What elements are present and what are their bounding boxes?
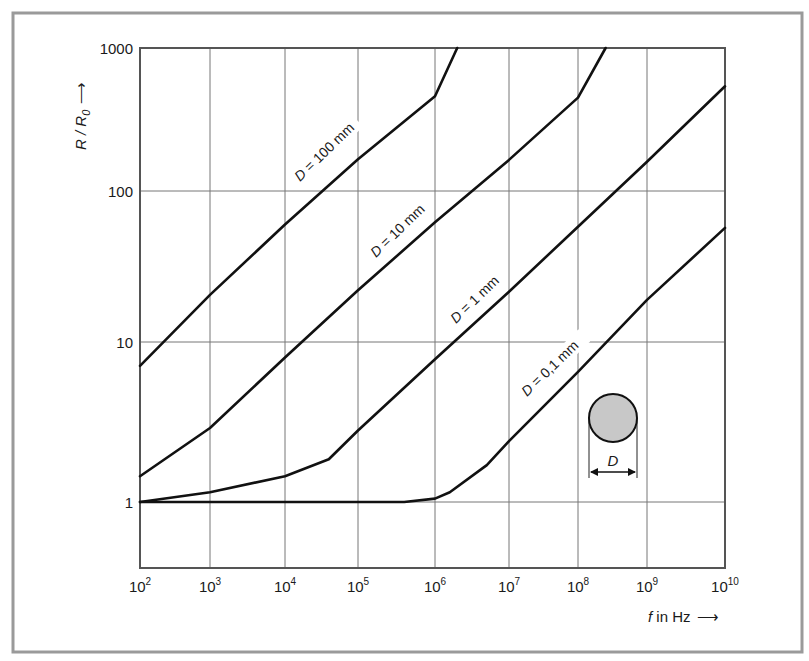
x-tick-label: 104 bbox=[274, 576, 297, 595]
y-tick-label: 100 bbox=[108, 183, 133, 200]
label-text: = 0,1 mm bbox=[525, 337, 581, 392]
cross-section-inset: D bbox=[589, 394, 637, 478]
y-tick-label: 1 bbox=[125, 494, 133, 511]
x-tick-label: 109 bbox=[636, 576, 659, 595]
curve-label-d100: D = 100 mm bbox=[290, 114, 364, 186]
y-arrow-icon: ⟶ bbox=[72, 82, 89, 104]
y-label-sub: 0 bbox=[80, 109, 92, 116]
svg-text:D = 0,1 mm: D = 0,1 mm bbox=[518, 337, 581, 399]
y-axis-label: R / R0⟶ bbox=[72, 82, 92, 150]
curve-label-d1: D = 1 mm bbox=[446, 267, 508, 328]
x-axis-label: f in Hz⟶ bbox=[648, 608, 719, 625]
x-label-rest: in Hz bbox=[652, 608, 690, 625]
label-text: = 10 mm bbox=[374, 201, 427, 253]
x-tick-label: 107 bbox=[498, 576, 521, 595]
x-tick-label: 102 bbox=[129, 576, 152, 595]
y-axis-ticks: 1000100101 bbox=[100, 40, 133, 511]
y-tick-label: 10 bbox=[116, 334, 133, 351]
curve-label-d01: D = 0,1 mm bbox=[517, 329, 591, 401]
y-tick-label: 1000 bbox=[100, 40, 133, 57]
outer-frame bbox=[13, 13, 802, 652]
x-arrow-icon: ⟶ bbox=[697, 608, 719, 625]
x-tick-label: 106 bbox=[424, 576, 447, 595]
plot-area-frame bbox=[140, 48, 725, 568]
arrow-right-icon bbox=[628, 468, 636, 476]
dimension-label: D bbox=[608, 452, 619, 469]
x-tick-label: 105 bbox=[347, 576, 370, 595]
svg-text:R / R0⟶: R / R0⟶ bbox=[72, 82, 92, 150]
x-axis-ticks: 1021031041051061071081091010 bbox=[129, 576, 739, 595]
x-tick-label: 103 bbox=[199, 576, 222, 595]
label-text: = 1 mm bbox=[454, 272, 502, 319]
chart: 1000100101 1021031041051061071081091010 … bbox=[0, 0, 809, 661]
x-tick-label: 1010 bbox=[711, 576, 739, 595]
y-label-main: R / R bbox=[72, 116, 89, 150]
x-tick-label: 108 bbox=[567, 576, 590, 595]
svg-text:D = 10 mm: D = 10 mm bbox=[367, 201, 428, 260]
svg-text:D = 100 mm: D = 100 mm bbox=[291, 119, 357, 184]
grid bbox=[140, 48, 725, 568]
svg-text:D = 1 mm: D = 1 mm bbox=[447, 272, 502, 326]
wire-cross-section-icon bbox=[589, 394, 637, 442]
arrow-left-icon bbox=[590, 468, 598, 476]
